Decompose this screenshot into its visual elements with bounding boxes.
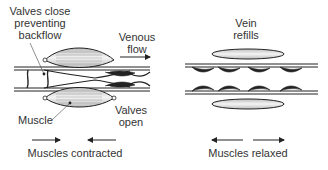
label-venous-flow-line2: flow (127, 43, 147, 55)
label-valves-open-line2: open (119, 116, 143, 128)
leader-dot-valves (43, 73, 46, 76)
label-valves-open-line1: Valves (115, 104, 148, 116)
muscle-bottom-relaxed (212, 99, 284, 109)
valves-relaxed (192, 67, 302, 91)
panel-relaxed: Vein refills Muscles relaxed (185, 17, 318, 159)
label-valves-open: Valves open (115, 104, 148, 128)
label-valves-close-line1: Valves close (10, 5, 71, 17)
muscle-top-relaxed (212, 49, 284, 59)
muscle-top-contracted (43, 48, 114, 68)
panel-contracted: Valves close preventing backflow Venous … (10, 5, 156, 159)
leader-dot-muscle (69, 102, 72, 105)
label-valves-close-line2: preventing (14, 17, 65, 29)
closed-valves (27, 70, 48, 88)
leader-line-muscle (52, 103, 70, 120)
label-venous-flow: Venous flow (119, 31, 156, 57)
muscle-bottom-contracted (43, 88, 116, 108)
label-valves-close-line3: backflow (19, 29, 62, 41)
label-vein-refills-line2: refills (233, 29, 259, 41)
caption-contracted: Muscles contracted (28, 147, 123, 159)
caption-relaxed: Muscles relaxed (208, 147, 287, 159)
label-vein-refills-line1: Vein (235, 17, 256, 29)
label-vein-refills: Vein refills (233, 17, 259, 41)
leader-line-valves (30, 43, 44, 74)
label-muscle-text: Muscle (18, 114, 53, 126)
muscle-pump-diagram: Valves close preventing backflow Venous … (0, 0, 328, 170)
open-valves (105, 71, 150, 87)
label-venous-flow-line1: Venous (119, 31, 156, 43)
